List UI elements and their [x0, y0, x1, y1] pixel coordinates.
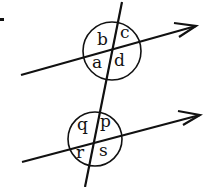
edge-mark [0, 18, 4, 21]
angle-label-b: b [97, 29, 108, 49]
angle-label-q: q [77, 114, 88, 134]
angle-label-a: a [92, 52, 102, 72]
angle-label-s: s [99, 140, 108, 160]
angle-label-c: c [120, 22, 130, 42]
lower-parallel-line [22, 115, 200, 162]
angle-label-p: p [100, 111, 111, 131]
parallel-lines-diagram: b c a d q p r s [0, 0, 203, 187]
angle-label-d: d [114, 50, 125, 70]
angle-label-r: r [76, 142, 85, 162]
